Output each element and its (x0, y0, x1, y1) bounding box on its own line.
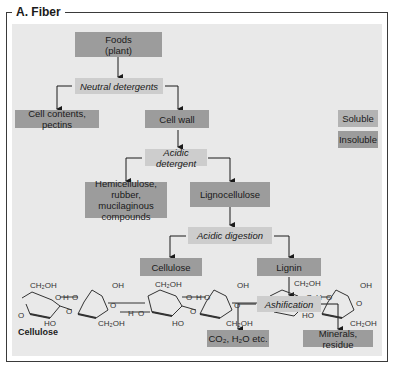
node-co2-h2o: CO₂, H₂O etc. (207, 330, 269, 347)
legend-soluble: Soluble (338, 110, 378, 127)
node-cellulose: Cellulose (140, 258, 202, 276)
svg-text:OH: OH (360, 281, 372, 290)
svg-text:H: H (63, 293, 69, 302)
node-lignin-label: Lignin (276, 262, 301, 273)
arrow-neutral-cellwall (165, 86, 178, 109)
svg-text:O: O (18, 311, 24, 320)
arrow-digestion-lignin (274, 236, 289, 257)
node-lignocellulose: Lignocellulose (190, 182, 270, 207)
node-minerals-residue-label: Minerals, residue (303, 328, 373, 350)
node-cellulose-label: Cellulose (151, 262, 190, 273)
arrow-neutral-cellcontents (57, 86, 72, 109)
node-hemicellulose-label: Hemicellulose, rubber, mucilaginous comp… (89, 178, 163, 222)
cellulose-structure-label: Cellulose (18, 327, 58, 337)
legend-insoluble-label: Insoluble (339, 134, 377, 145)
svg-text:O: O (356, 299, 362, 308)
node-cell-contents: Cell contents, pectins (15, 110, 99, 128)
node-acidic-digestion: Acidic digestion (188, 227, 272, 244)
node-lignin: Lignin (257, 258, 321, 276)
svg-text:O: O (138, 309, 144, 318)
svg-text:CH₂OH: CH₂OH (155, 280, 182, 289)
svg-text:OH: OH (112, 281, 124, 290)
legend-soluble-label: Soluble (342, 113, 374, 124)
svg-text:O: O (66, 307, 72, 316)
svg-text:CH₂OH: CH₂OH (30, 281, 57, 290)
svg-text:H: H (196, 293, 202, 302)
node-acidic-detergent-label: Acidic detergent (145, 147, 207, 169)
svg-text:H: H (128, 309, 134, 318)
svg-text:O: O (110, 301, 116, 310)
node-cell-wall: Cell wall (145, 110, 209, 128)
node-acidic-detergent: Acidic detergent (145, 149, 207, 166)
svg-text:O: O (190, 307, 196, 316)
svg-text:CH₂OH: CH₂OH (294, 279, 321, 288)
svg-text:O: O (204, 293, 210, 302)
svg-text:HO: HO (302, 311, 314, 320)
arrow-digestion-cellulose (170, 236, 186, 257)
svg-text:O: O (72, 293, 78, 302)
svg-text:O: O (234, 301, 240, 310)
node-ashification-label: Ashification (265, 299, 314, 310)
node-cell-wall-label: Cell wall (159, 114, 194, 125)
node-foods: Foods (plant) (75, 32, 162, 57)
svg-text:CH₂OH: CH₂OH (98, 319, 125, 328)
node-acidic-digestion-label: Acidic digestion (197, 230, 263, 241)
node-cell-contents-label: Cell contents, pectins (15, 108, 99, 130)
node-foods-label: Foods (plant) (105, 34, 132, 56)
node-ashification: Ashification (257, 296, 321, 312)
svg-text:O: O (55, 293, 61, 302)
svg-text:CH₂OH: CH₂OH (226, 319, 253, 328)
arrow-acidic-lignocellulose (208, 158, 230, 181)
legend-insoluble: Insoluble (338, 131, 378, 148)
node-neutral-detergents: Neutral detergents (75, 78, 163, 94)
svg-text:O: O (186, 293, 192, 302)
svg-text:OH: OH (237, 281, 249, 290)
node-co2-h2o-label: CO₂, H₂O etc. (208, 333, 267, 344)
node-lignocellulose-label: Lignocellulose (200, 189, 260, 200)
svg-text:HO: HO (172, 319, 184, 328)
node-hemicellulose: Hemicellulose, rubber, mucilaginous comp… (85, 182, 167, 218)
node-neutral-detergents-label: Neutral detergents (80, 81, 158, 92)
node-minerals-residue: Minerals, residue (303, 330, 373, 347)
svg-text:O: O (326, 293, 332, 302)
